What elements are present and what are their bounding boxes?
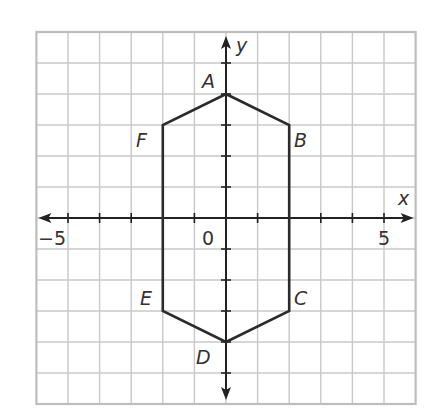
tick-label-neg5: −5 — [38, 227, 66, 249]
vertex-label-D: D — [196, 346, 211, 368]
vertex-label-F: F — [136, 129, 148, 151]
tick-label-5: 5 — [378, 227, 390, 249]
vertex-label-C: C — [294, 287, 308, 309]
vertex-label-B: B — [294, 129, 307, 151]
vertex-label-E: E — [140, 287, 152, 309]
origin-label: 0 — [202, 227, 214, 249]
coordinate-plane: x y −5 0 5 A B C D E F — [0, 0, 436, 418]
x-axis-label: x — [397, 187, 410, 209]
y-axis-label: y — [235, 34, 248, 56]
vertex-label-A: A — [200, 70, 215, 92]
axes — [38, 36, 413, 400]
